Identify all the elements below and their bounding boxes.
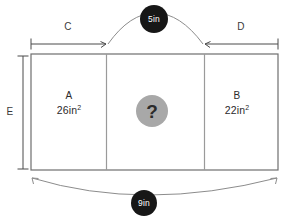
panel-b-area-exponent: 2 [245, 103, 249, 110]
label-height-e: E [3, 107, 17, 117]
dimension-line-e [18, 56, 29, 169]
panel-a-letter: A [38, 89, 100, 103]
panel-label-b: B 22in2 [206, 89, 268, 117]
badge-total-width: 9in [131, 190, 157, 216]
label-segment-d: D [221, 22, 261, 32]
panel-b-letter: B [206, 89, 268, 103]
panel-b-area-value: 22in [225, 104, 246, 116]
dimension-line-d [205, 39, 278, 50]
arc-total-width [32, 178, 277, 195]
badge-middle-width: 5in [140, 5, 168, 33]
composite-rectangle-diagram: C D E A 26in2 B 22in2 ? 5in 9in [0, 0, 288, 220]
panel-label-a: A 26in2 [38, 89, 100, 117]
panel-a-area-exponent: 2 [77, 103, 81, 110]
dimension-line-c [31, 39, 106, 50]
unknown-region-marker: ? [136, 95, 168, 127]
panel-a-area-value: 26in [57, 104, 78, 116]
panel-b-area: 22in2 [206, 103, 268, 117]
panel-a-area: 26in2 [38, 103, 100, 117]
label-segment-c: C [48, 22, 88, 32]
